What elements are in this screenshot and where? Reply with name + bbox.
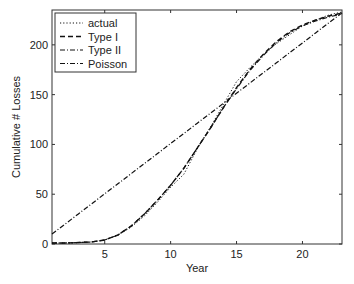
y-tick-label: 100 <box>30 138 48 150</box>
y-tick-label: 200 <box>30 39 48 51</box>
y-axis-label: Cumulative # Losses <box>10 75 22 178</box>
legend-label: Type I <box>88 31 118 43</box>
legend-label: Type II <box>88 44 121 56</box>
y-tick-label: 150 <box>30 89 48 101</box>
x-tick-label: 15 <box>230 248 242 260</box>
x-tick-label: 10 <box>165 248 177 260</box>
chart: 5101520050100150200 Year Cumulative # Lo… <box>0 0 354 284</box>
x-tick-label: 20 <box>296 248 308 260</box>
legend-label: actual <box>88 17 117 29</box>
legend-label: Poisson <box>88 58 127 70</box>
y-tick-label: 50 <box>36 188 48 200</box>
legend: actualType IType IIPoisson <box>55 13 136 72</box>
x-axis-label: Year <box>186 262 209 274</box>
y-tick-label: 0 <box>42 238 48 250</box>
x-tick-label: 5 <box>102 248 108 260</box>
